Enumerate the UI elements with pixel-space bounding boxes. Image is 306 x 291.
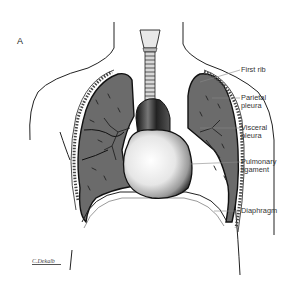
label-visceral-pleura: Visceral pleura xyxy=(241,124,267,140)
trachea xyxy=(140,30,160,100)
label-pulmonary-ligament: Pulmonary ligament xyxy=(241,158,276,174)
label-text: pleura xyxy=(241,102,266,110)
left-lung xyxy=(71,70,134,222)
diagram-figure: A First rib Parietal pleura Visceral ple… xyxy=(0,0,306,291)
label-text: Diaphragm xyxy=(241,207,277,215)
label-first-rib: First rib xyxy=(241,66,266,74)
thorax-illustration xyxy=(0,0,306,291)
label-text: First rib xyxy=(241,66,266,74)
label-parietal-pleura: Parietal pleura xyxy=(241,94,266,110)
label-text: pleura xyxy=(241,132,267,140)
artist-signature: C.Dekalb xyxy=(32,258,61,265)
label-diaphragm: Diaphragm xyxy=(241,207,277,215)
heart xyxy=(124,130,193,199)
label-text: ligament xyxy=(241,166,276,174)
panel-letter: A xyxy=(17,36,23,46)
